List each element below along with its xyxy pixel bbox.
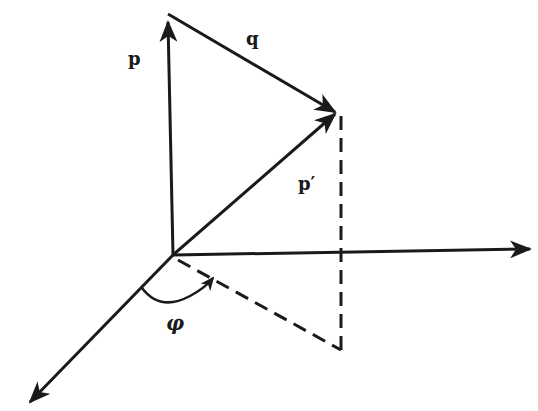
label-q: q <box>246 28 259 49</box>
angle-phi-arc <box>142 278 213 302</box>
label-phi: φ <box>166 311 184 335</box>
depth-axis <box>30 255 173 402</box>
horizontal-axis <box>173 249 530 255</box>
projection-horizontal-dashed <box>178 260 341 350</box>
label-p: p <box>128 48 141 69</box>
vector-diagram: p q p′ φ <box>0 0 538 411</box>
vector-p <box>168 22 173 255</box>
label-p-prime: p′ <box>298 173 316 194</box>
